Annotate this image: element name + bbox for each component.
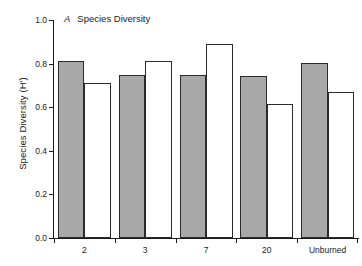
x-tick-mark xyxy=(176,238,177,243)
y-tick-mark xyxy=(49,194,54,195)
x-tick-mark xyxy=(297,238,298,243)
x-tick-label-3: 3 xyxy=(143,246,148,255)
bar-shaded-20 xyxy=(240,76,267,238)
y-tick-mark xyxy=(49,151,54,152)
chart-figure: Species Diversity (H') ASpecies Diversit… xyxy=(0,0,362,266)
x-tick-label-7: 7 xyxy=(204,246,209,255)
x-tick-label-20: 20 xyxy=(262,246,271,255)
x-tick-mark xyxy=(357,238,358,243)
bar-shaded-7 xyxy=(180,75,207,239)
bar-open-Unburned xyxy=(328,92,355,238)
y-axis-label: Species Diversity (H') xyxy=(17,24,28,224)
x-tick-mark xyxy=(236,238,237,243)
bar-open-7 xyxy=(206,44,233,238)
x-tick-label-2: 2 xyxy=(82,246,87,255)
bar-open-2 xyxy=(84,83,111,238)
bar-open-3 xyxy=(145,61,172,238)
y-tick-label: 0.4 xyxy=(35,147,47,156)
y-tick-mark xyxy=(49,20,54,21)
y-tick-label: 0.2 xyxy=(35,190,47,199)
x-tick-mark xyxy=(54,238,55,243)
y-tick-mark xyxy=(49,64,54,65)
y-tick-mark xyxy=(49,107,54,108)
y-tick-label: 0.6 xyxy=(35,103,47,112)
y-tick-label: 0.8 xyxy=(35,59,47,68)
bar-open-20 xyxy=(267,104,294,238)
bar-shaded-2 xyxy=(58,61,85,238)
y-axis-line xyxy=(53,20,54,239)
y-tick-label: 1.0 xyxy=(35,16,47,25)
bar-shaded-3 xyxy=(119,75,146,239)
x-tick-mark xyxy=(115,238,116,243)
x-axis-line xyxy=(53,238,359,239)
bar-shaded-Unburned xyxy=(301,63,328,238)
x-tick-label-Unburned: Unburned xyxy=(309,246,346,255)
y-tick-label: 0.0 xyxy=(35,234,47,243)
plot-area: 0.00.20.40.60.81.0 23720Unburned xyxy=(54,20,358,238)
